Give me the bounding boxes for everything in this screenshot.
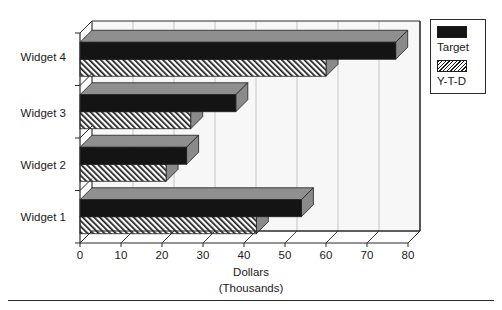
y-axis-tick-label: Widget 4: [8, 52, 66, 64]
legend-label-ytd: Y-T-D: [437, 76, 466, 88]
x-axis-tick-label: 30: [191, 250, 215, 262]
bar-chart: Widget 4 Widget 3 Widget 2 Widget 1 0 10…: [0, 0, 502, 310]
x-axis-tick-label: 60: [314, 250, 338, 262]
x-axis-tick-label: 80: [396, 250, 420, 262]
y-axis-tick-label: Widget 1: [8, 212, 66, 224]
legend-label-target: Target: [437, 42, 469, 54]
x-axis-title: Dollars: [0, 267, 502, 279]
x-axis-tick-label: 20: [150, 250, 174, 262]
chart-canvas: [0, 0, 502, 310]
x-axis-tick-label: 10: [109, 250, 133, 262]
x-axis-tick-label: 50: [273, 250, 297, 262]
legend: Target Y-T-D: [430, 19, 486, 94]
x-axis-tick-label: 0: [68, 250, 92, 262]
x-axis-tick-label: 70: [355, 250, 379, 262]
bottom-divider: [8, 300, 494, 301]
y-axis-tick-label: Widget 3: [8, 108, 66, 120]
legend-swatch-ytd-icon: [437, 60, 467, 72]
legend-swatch-target-icon: [437, 26, 467, 38]
y-axis-tick-label: Widget 2: [8, 160, 66, 172]
x-axis-tick-label: 40: [232, 250, 256, 262]
x-axis-title-units: (Thousands): [0, 283, 502, 295]
